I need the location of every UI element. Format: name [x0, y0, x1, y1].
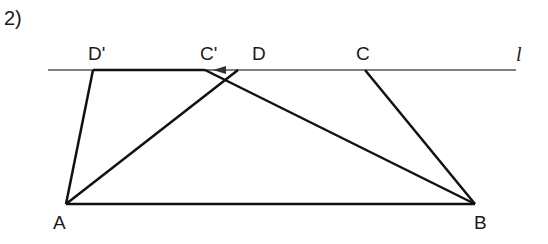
label-b: B — [474, 213, 487, 232]
segment-dprime-a — [66, 70, 93, 204]
label-line-l: l — [516, 44, 522, 64]
geometry-figure — [0, 0, 548, 244]
label-c-prime: C' — [200, 44, 217, 63]
problem-number: 2) — [4, 8, 22, 28]
segment-a-d — [66, 70, 238, 204]
label-d: D — [252, 44, 266, 63]
label-a: A — [53, 213, 66, 232]
label-c: C — [356, 44, 370, 63]
segment-cprime-b — [205, 70, 475, 204]
arrow-icon — [213, 66, 226, 74]
segment-c-b — [365, 70, 475, 204]
label-d-prime: D' — [88, 44, 105, 63]
